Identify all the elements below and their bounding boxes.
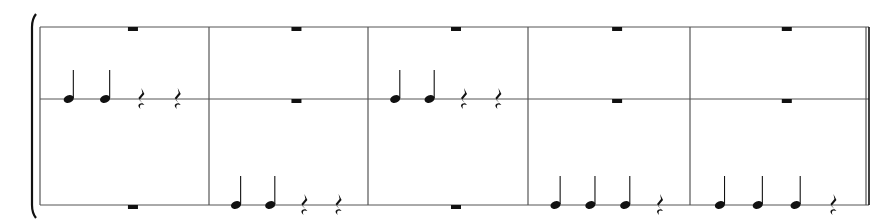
quarter-note-icon — [230, 176, 242, 210]
quarter-note-icon — [264, 176, 276, 210]
whole-rest-icon — [782, 27, 792, 31]
quarter-note-icon — [99, 70, 111, 104]
quarter-note-icon — [389, 70, 401, 104]
music-score — [0, 0, 888, 221]
whole-rest-icon — [291, 27, 301, 31]
system-bracket — [32, 14, 36, 218]
quarter-note-icon — [752, 176, 764, 210]
whole-rest-icon — [612, 99, 622, 103]
whole-rest-icon — [782, 99, 792, 103]
whole-rest-icon — [451, 27, 461, 31]
whole-rest-icon — [612, 27, 622, 31]
whole-rest-icon — [291, 99, 301, 103]
whole-rest-icon — [128, 27, 138, 31]
quarter-note-icon — [63, 70, 75, 104]
quarter-note-icon — [789, 176, 801, 210]
quarter-note-icon — [714, 176, 726, 210]
quarter-note-icon — [584, 176, 596, 210]
quarter-note-icon — [619, 176, 631, 210]
quarter-note-icon — [549, 176, 561, 210]
whole-rest-icon — [128, 205, 138, 209]
quarter-note-icon — [423, 70, 435, 104]
whole-rest-icon — [451, 205, 461, 209]
